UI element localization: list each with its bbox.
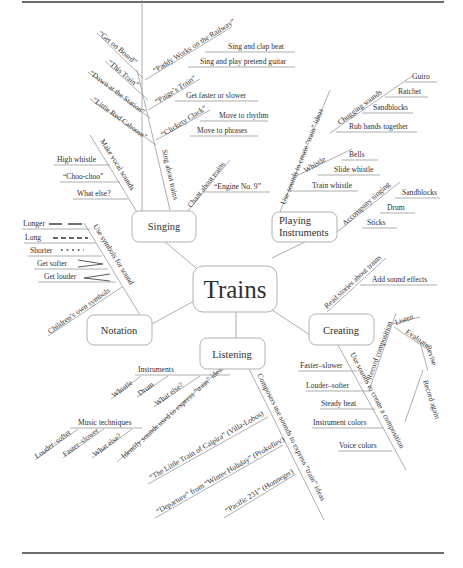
song-little-red-caboose: “Little Red Caboose” (91, 95, 149, 141)
listen: Listen (394, 312, 415, 327)
make-vocal-sounds-label: Make vocal sounds (98, 137, 137, 192)
symbol-get-louder: Get louder (44, 272, 77, 281)
sing-about-trains-label: Sing about trains (160, 148, 180, 200)
choo-choo: “Choo-choo” (63, 172, 104, 181)
node-singing: Singing (132, 211, 196, 242)
move-to-phrases: Move to phrases (197, 126, 247, 135)
crescendo-icon (84, 274, 110, 281)
voice-colors: Voice colors (339, 441, 377, 450)
work-pacific-231: “Pacific 231” (Honneger) (223, 467, 295, 515)
get-faster-slower: Get faster or slower (186, 91, 247, 100)
louder-softer-create: Louder–softer (306, 381, 349, 390)
center-title: Trains (204, 276, 267, 303)
rub-hands: Rub hands together (349, 122, 409, 131)
creating-label: Creating (323, 325, 360, 336)
playing-branch: Use sounds to create “train” ideas Chugg… (279, 72, 440, 232)
node-playing-instruments: Playing Instruments (272, 212, 337, 242)
record-again: Record again (421, 379, 442, 420)
music-techniques-label: Music techniques (78, 418, 131, 427)
guiro: Guiro (412, 72, 430, 81)
listen-drum: Drum (136, 380, 156, 398)
ratchet: Ratchet (398, 87, 422, 96)
singing-label: Singing (148, 221, 181, 232)
symbol-get-softer: Get softer (37, 259, 68, 268)
revise: Revise (424, 344, 439, 367)
use-symbols-label: Use symbols for sound (91, 222, 136, 286)
listening-branch: Identify sounds used to express “train” … (33, 363, 328, 520)
notation-label: Notation (101, 325, 138, 336)
instruments-node-label: Instruments (279, 227, 329, 238)
sandblocks-chugging: Sandblocks (373, 103, 408, 112)
sing-clap-beat: Sing and clap beat (228, 42, 285, 51)
sandblocks-accompany: Sandblocks (402, 188, 437, 197)
singing-branch: Sing about trains “Get on Board” “This T… (54, 0, 295, 212)
sticks: Sticks (367, 218, 386, 227)
slide-whistle: Slide whistle (334, 165, 374, 174)
high-whistle: High whistle (57, 155, 97, 164)
work-departure: “Departure” from “Winter Holiday” (Proko… (155, 434, 287, 515)
listen-whistle: Whistle (110, 378, 135, 400)
symbol-shorter: Shorter (30, 246, 53, 255)
creating-branch: Read stories about trains Add sound effe… (298, 253, 442, 470)
decrescendo-icon (78, 260, 103, 267)
node-trains-center: Trains (193, 266, 277, 312)
move-to-rhythm: Move to rhythm (219, 111, 268, 120)
steady-beat: Steady beat (321, 399, 357, 408)
playing-label: Playing (279, 215, 312, 226)
train-whistle: Train whistle (312, 181, 353, 190)
symbol-longer: Longer (23, 219, 45, 228)
bells: Bells (349, 150, 365, 159)
sing-play-guitar: Sing and play pretend guitar (200, 57, 287, 66)
add-sound-effects: Add sound effects (372, 275, 427, 284)
faster-slower-create: Faster–slower (300, 361, 343, 370)
symbol-long: Long (25, 233, 41, 242)
drum-accompany: Drum (387, 203, 405, 212)
instrument-colors: Instrument colors (313, 418, 366, 427)
node-creating: Creating (309, 314, 374, 345)
mind-map: Sing about trains “Get on Board” “This T… (0, 0, 463, 568)
listening-label: Listening (212, 349, 252, 360)
instruments-label: Instruments (138, 365, 174, 374)
song-get-on-board: “Get on Board” (97, 29, 139, 67)
engine-no-9: “Engine No. 9” (214, 182, 261, 191)
vocal-what-else: What else? (77, 189, 111, 198)
node-listening: Listening (200, 338, 265, 369)
node-notation: Notation (87, 315, 152, 345)
